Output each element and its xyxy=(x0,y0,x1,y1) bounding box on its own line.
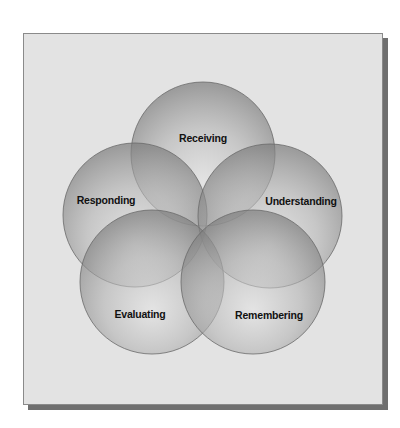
label-understanding: Understanding xyxy=(265,195,337,207)
listening-process-diagram: Receiving Responding Understanding Evalu… xyxy=(0,0,400,428)
label-evaluating: Evaluating xyxy=(114,308,165,320)
label-receiving: Receiving xyxy=(179,132,227,144)
circle-remembering xyxy=(181,210,325,354)
diagram-stage: Receiving Responding Understanding Evalu… xyxy=(0,0,400,428)
label-responding: Responding xyxy=(77,194,136,206)
label-remembering: Remembering xyxy=(235,309,303,321)
